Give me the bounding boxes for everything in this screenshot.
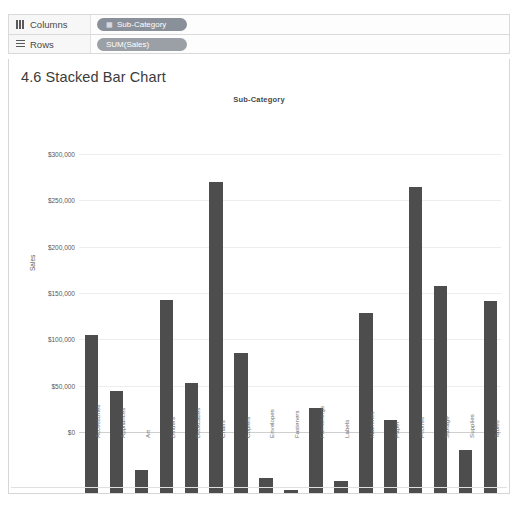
x-axis-tick-label: Art xyxy=(144,430,151,438)
bar[interactable] xyxy=(434,286,447,493)
x-axis-tick-label: Chairs xyxy=(219,420,226,438)
x-axis-tick-label: Labels xyxy=(343,420,350,438)
panel-divider xyxy=(11,487,507,488)
y-axis-tick-label: $200,000 xyxy=(48,243,79,250)
bar[interactable] xyxy=(409,187,422,493)
x-axis-tick-label: Paper xyxy=(393,421,400,438)
x-axis-tick-label: Bookcases xyxy=(194,408,201,438)
x-axis-tick-label: Supplies xyxy=(468,414,475,438)
x-axis-tick-label: Furnishings xyxy=(318,406,325,438)
x-axis-tick-label: Machines xyxy=(368,412,375,438)
bar[interactable] xyxy=(185,383,198,493)
bar[interactable] xyxy=(135,470,148,493)
shelf-area: Columns ▦ Sub-Category Rows SUM(Sales) xyxy=(8,14,510,54)
bar[interactable] xyxy=(359,313,372,493)
pill-sub-category[interactable]: ▦ Sub-Category xyxy=(97,18,187,31)
y-axis-tick-label: $300,000 xyxy=(48,151,79,158)
bar[interactable] xyxy=(259,478,272,493)
pill-sub-category-label: Sub-Category xyxy=(117,20,166,29)
columns-shelf-label: Columns xyxy=(9,15,91,34)
pill-sum-sales[interactable]: SUM(Sales) xyxy=(97,38,187,51)
x-axis-tick-label: Envelopes xyxy=(268,409,275,438)
y-axis-tick-label: $150,000 xyxy=(48,290,79,297)
bar[interactable] xyxy=(160,300,173,493)
columns-label-text: Columns xyxy=(30,19,68,30)
y-axis-tick-label: $0 xyxy=(68,429,79,436)
bar[interactable] xyxy=(484,301,497,493)
y-axis-label: Sales xyxy=(29,255,36,271)
rows-icon xyxy=(16,40,25,49)
bar-series xyxy=(79,59,501,493)
worksheet-panel: 4.6 Stacked Bar Chart Sub-Category Sales… xyxy=(8,59,510,494)
x-axis-tick-label: Copiers xyxy=(244,417,251,438)
x-axis-tick-label: Fasteners xyxy=(293,410,300,438)
y-axis-tick-label: $100,000 xyxy=(48,336,79,343)
y-axis-tick-label: $250,000 xyxy=(48,197,79,204)
rows-shelf[interactable]: Rows SUM(Sales) xyxy=(8,34,510,54)
columns-shelf-dropzone[interactable]: ▦ Sub-Category xyxy=(91,15,509,34)
rows-shelf-label: Rows xyxy=(9,35,91,53)
columns-shelf[interactable]: Columns ▦ Sub-Category xyxy=(8,14,510,34)
bar[interactable] xyxy=(209,182,222,493)
y-axis-tick-label: $50,000 xyxy=(52,382,80,389)
x-axis-tick-label: Tables xyxy=(493,420,500,438)
chart-plot-area: Sales $0$50,000$100,000$150,000$200,000$… xyxy=(9,59,509,493)
dimension-icon: ▦ xyxy=(106,21,113,28)
x-axis-tick-label: Storage xyxy=(443,416,450,438)
x-axis-tick-label: Appliances xyxy=(119,408,126,438)
pill-sum-sales-label: SUM(Sales) xyxy=(106,40,149,49)
rows-shelf-dropzone[interactable]: SUM(Sales) xyxy=(91,35,509,53)
x-axis-tick-label: Binders xyxy=(169,417,176,438)
columns-icon xyxy=(16,20,25,29)
bar[interactable] xyxy=(284,490,297,493)
x-axis-tick-label: Phones xyxy=(418,417,425,438)
bar[interactable] xyxy=(110,391,123,493)
x-axis-tick-label: Accessories xyxy=(94,405,101,438)
rows-label-text: Rows xyxy=(30,39,54,50)
